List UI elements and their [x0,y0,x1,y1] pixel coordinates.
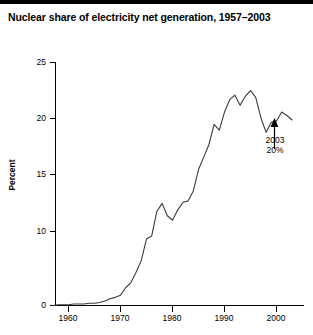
callout-year: 2003 [258,135,292,145]
x-tick-label-1980: 1980 [152,314,192,323]
y-tick-label-25: 25 [22,58,46,67]
endpoint-callout: 2003 20% [258,135,292,155]
y-axis-label: Percent [7,150,17,200]
x-axis-ticks [69,306,277,313]
y-tick-label-15: 15 [22,170,46,179]
chart-plot-area [0,0,313,335]
y-tick-label-20: 20 [22,114,46,123]
y-tick-label-10: 10 [22,227,46,236]
x-tick-label-1990: 1990 [204,314,244,323]
y-tick-label-0: 0 [22,301,46,310]
x-tick-label-1960: 1960 [48,314,88,323]
x-tick-label-1970: 1970 [100,314,140,323]
callout-value: 20% [258,145,292,155]
y-axis-ticks [50,63,56,306]
nuclear-share-line [53,91,292,306]
x-tick-label-2000: 2000 [256,314,296,323]
